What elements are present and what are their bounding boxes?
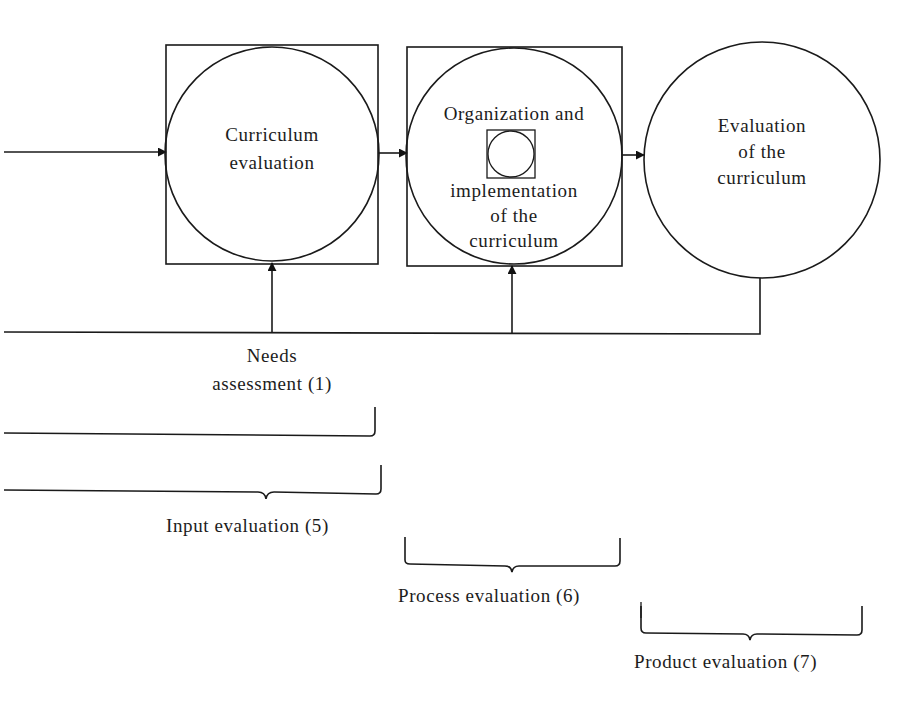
stage-2-label-bottom: implementation of the curriculum [414,178,614,253]
process-evaluation-label: Process evaluation (6) [398,582,638,610]
stage-2-line-2: implementation [414,178,614,203]
stage-2-line-3: of the [414,203,614,228]
inner-square-icon [487,130,535,178]
input-bracket [4,465,381,499]
inner-circle-icon [488,131,534,177]
stage-3-line-3: curriculum [682,165,842,191]
process-bracket [405,537,620,572]
stage-1-label: Curriculum evaluation [212,121,332,177]
stage-2-line-4: curriculum [414,228,614,253]
needs-line-2: assessment (1) [192,370,352,398]
needs-line-1: Needs [192,342,352,370]
stage-3-label: Evaluation of the curriculum [682,113,842,191]
product-bracket [641,606,862,640]
feedback-loop [4,263,760,334]
needs-assessment-label: Needs assessment (1) [192,342,352,398]
input-evaluation-label: Input evaluation (5) [166,512,386,540]
stage-3-line-2: of the [682,139,842,165]
needs-bracket [4,407,375,436]
stage-2-label-top: Organization and [414,100,614,128]
stage-1-line-2: evaluation [212,149,332,177]
stage-2-line-1: Organization and [414,100,614,128]
stage-1-line-1: Curriculum [212,121,332,149]
product-evaluation-label: Product evaluation (7) [634,648,874,676]
feedback-line [4,278,760,334]
stage-3-line-1: Evaluation [682,113,842,139]
